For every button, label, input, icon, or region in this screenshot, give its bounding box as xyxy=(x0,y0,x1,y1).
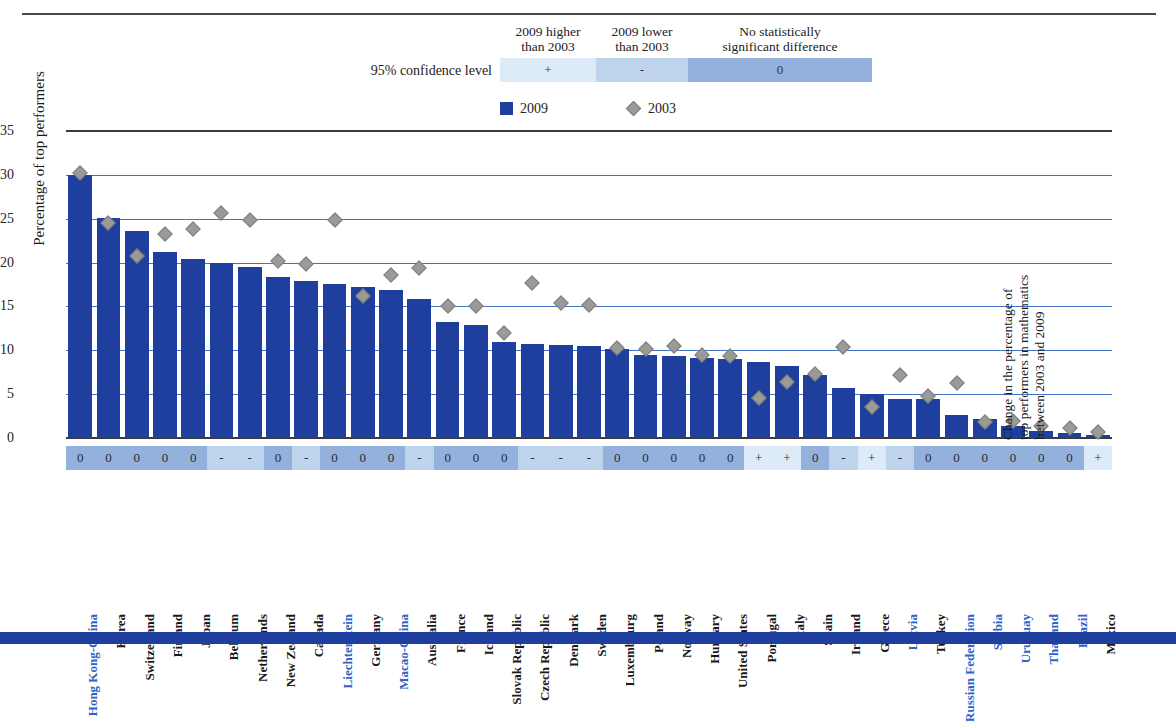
bar-slot[interactable] xyxy=(349,131,377,438)
marker-2003[interactable] xyxy=(383,267,399,283)
bar-slot[interactable] xyxy=(66,131,94,438)
marker-2003[interactable] xyxy=(525,275,541,291)
bar-slot[interactable] xyxy=(207,131,235,438)
bar-2009[interactable] xyxy=(916,399,940,438)
bar-2009[interactable] xyxy=(492,342,516,438)
bar-slot[interactable] xyxy=(886,131,914,438)
bar-2009[interactable] xyxy=(266,277,290,438)
bar-2009[interactable] xyxy=(181,259,205,438)
bar-slot[interactable] xyxy=(292,131,320,438)
significance-band-zero: 0 xyxy=(688,58,872,82)
marker-2003[interactable] xyxy=(836,339,852,355)
bar-slot[interactable] xyxy=(434,131,462,438)
bar-2009[interactable] xyxy=(97,218,121,438)
marker-2003[interactable] xyxy=(327,213,343,229)
bar-2009[interactable] xyxy=(605,349,629,438)
plot-area xyxy=(66,131,1112,438)
bar-series-container xyxy=(66,131,1112,438)
bar-slot[interactable] xyxy=(547,131,575,438)
bar-2009[interactable] xyxy=(521,344,545,438)
bar-slot[interactable] xyxy=(914,131,942,438)
bar-2009[interactable] xyxy=(351,287,375,438)
bar-2009[interactable] xyxy=(577,346,601,438)
bar-2009[interactable] xyxy=(153,252,177,438)
bar-slot[interactable] xyxy=(660,131,688,438)
bar-slot[interactable] xyxy=(631,131,659,438)
significance-cell: + xyxy=(858,446,886,470)
bar-slot[interactable] xyxy=(151,131,179,438)
bar-2009[interactable] xyxy=(888,399,912,438)
bar-2009[interactable] xyxy=(718,359,742,438)
bar-slot[interactable] xyxy=(490,131,518,438)
bar-2009[interactable] xyxy=(832,388,856,438)
marker-2003[interactable] xyxy=(412,260,428,276)
significance-band-minus: - xyxy=(596,58,688,82)
marker-2003[interactable] xyxy=(299,257,315,273)
significance-header-lower-line1: 2009 lower xyxy=(596,24,688,39)
bar-slot[interactable] xyxy=(688,131,716,438)
bar-slot[interactable] xyxy=(264,131,292,438)
bar-slot[interactable] xyxy=(179,131,207,438)
bar-2009[interactable] xyxy=(464,325,488,438)
bar-slot[interactable] xyxy=(320,131,348,438)
bar-slot[interactable] xyxy=(971,131,999,438)
bar-slot[interactable] xyxy=(942,131,970,438)
bar-slot[interactable] xyxy=(518,131,546,438)
bar-slot[interactable] xyxy=(1084,131,1112,438)
marker-2003[interactable] xyxy=(666,338,682,354)
bar-2009[interactable] xyxy=(323,284,347,438)
marker-2003[interactable] xyxy=(270,253,286,269)
bar-2009[interactable] xyxy=(294,281,318,438)
bar-slot[interactable] xyxy=(744,131,772,438)
bar-slot[interactable] xyxy=(716,131,744,438)
bar-slot[interactable] xyxy=(462,131,490,438)
marker-2003[interactable] xyxy=(242,212,258,228)
right-axis-title-line3: between 2003 and 2009 xyxy=(1032,190,1048,440)
bar-2009[interactable] xyxy=(68,175,92,438)
marker-2003[interactable] xyxy=(468,299,484,315)
significance-cell: 0 xyxy=(349,446,377,470)
marker-2003[interactable] xyxy=(581,297,597,313)
significance-bands: + - 0 xyxy=(500,58,872,82)
right-axis-title-line2: top performers in mathematics xyxy=(1016,190,1032,440)
marker-2003[interactable] xyxy=(496,325,512,341)
bar-2009[interactable] xyxy=(803,375,827,438)
bar-slot[interactable] xyxy=(858,131,886,438)
bar-slot[interactable] xyxy=(829,131,857,438)
marker-2003[interactable] xyxy=(185,221,201,237)
marker-2003[interactable] xyxy=(949,375,965,391)
bar-slot[interactable] xyxy=(123,131,151,438)
bar-2009[interactable] xyxy=(662,356,686,438)
bar-2009[interactable] xyxy=(690,358,714,438)
category-label: Netherlands xyxy=(255,614,271,682)
significance-cell: - xyxy=(405,446,433,470)
bar-2009[interactable] xyxy=(945,415,969,438)
bar-slot[interactable] xyxy=(94,131,122,438)
marker-2003[interactable] xyxy=(440,299,456,315)
bar-slot[interactable] xyxy=(773,131,801,438)
bar-slot[interactable] xyxy=(801,131,829,438)
bar-slot[interactable] xyxy=(575,131,603,438)
bar-slot[interactable] xyxy=(603,131,631,438)
bar-2009[interactable] xyxy=(634,355,658,438)
marker-2003[interactable] xyxy=(157,226,173,242)
bar-2009[interactable] xyxy=(238,267,262,438)
significance-header-higher-line1: 2009 higher xyxy=(500,24,596,39)
bar-slot[interactable] xyxy=(236,131,264,438)
bar-2009[interactable] xyxy=(407,299,431,438)
bar-2009[interactable] xyxy=(379,290,403,438)
significance-cell: 0 xyxy=(151,446,179,470)
bar-slot[interactable] xyxy=(377,131,405,438)
marker-2003[interactable] xyxy=(214,205,230,221)
bar-2009[interactable] xyxy=(210,263,234,438)
category-label: Hong Kong-China xyxy=(85,614,101,716)
marker-2003[interactable] xyxy=(553,295,569,311)
bar-2009[interactable] xyxy=(549,345,573,438)
bar-2009[interactable] xyxy=(436,322,460,438)
significance-cell: 0 xyxy=(377,446,405,470)
marker-2003[interactable] xyxy=(892,367,908,383)
bar-slot[interactable] xyxy=(405,131,433,438)
y-tick-label-25: 25 xyxy=(0,211,14,227)
y-tick-label-15: 15 xyxy=(0,298,14,314)
significance-cell: - xyxy=(236,446,264,470)
